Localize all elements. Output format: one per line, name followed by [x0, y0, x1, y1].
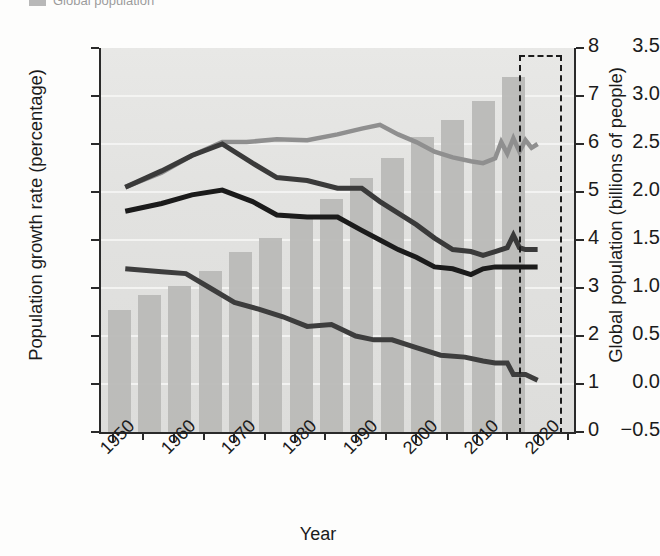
x-tick — [567, 434, 569, 440]
y-tick-right — [576, 335, 584, 337]
y-axis-title-right: Global population (billions of people) — [605, 15, 627, 415]
y-tick-label-right: 4 — [588, 226, 628, 249]
y-tick-right — [576, 191, 584, 193]
x-tick — [324, 434, 326, 440]
y-tick-left — [91, 239, 99, 241]
x-tick — [203, 434, 205, 440]
axis-spine-left — [99, 48, 101, 433]
y-tick-label-right: 0 — [588, 418, 628, 441]
y-tick-right — [576, 239, 584, 241]
y-tick-label-right: 3 — [588, 274, 628, 297]
x-tick — [506, 434, 508, 440]
x-tick — [385, 434, 387, 440]
x-tick — [142, 434, 144, 440]
y-tick-left — [91, 143, 99, 145]
y-tick-left — [91, 383, 99, 385]
y-tick-left — [91, 95, 99, 97]
legend: Global population — [0, 0, 660, 11]
y-tick-right — [576, 143, 584, 145]
y-tick-left — [91, 47, 99, 49]
y-axis-title-left: Population growth rate (percentage) — [25, 15, 47, 415]
x-axis-title: Year — [0, 524, 648, 545]
y-tick-label-right: 5 — [588, 178, 628, 201]
y-tick-label-right: 6 — [588, 130, 628, 153]
y-tick-right — [576, 383, 584, 385]
x-tick — [264, 434, 266, 440]
figure-population-growth: Global population Population growth rate… — [0, 0, 660, 556]
y-tick-left — [91, 431, 99, 433]
y-tick-right — [576, 47, 584, 49]
y-tick-left — [91, 287, 99, 289]
y-tick-label-right: 8 — [588, 34, 628, 57]
line-line-black — [125, 190, 537, 274]
y-tick-left — [91, 335, 99, 337]
y-tick-right — [576, 287, 584, 289]
y-tick-right — [576, 431, 584, 433]
y-tick-label-right: 7 — [588, 82, 628, 105]
y-tick-left — [91, 191, 99, 193]
y-tick-right — [576, 95, 584, 97]
x-tick — [446, 434, 448, 440]
line-line-bottom-dark — [125, 269, 537, 380]
line-series-group — [101, 48, 574, 432]
projection-region-box — [519, 55, 561, 434]
y-tick-label-right: 2 — [588, 322, 628, 345]
y-tick-label-right: 1 — [588, 370, 628, 393]
legend-swatch-global-population — [29, 0, 46, 6]
legend-label-global-population: Global population — [53, 0, 154, 8]
